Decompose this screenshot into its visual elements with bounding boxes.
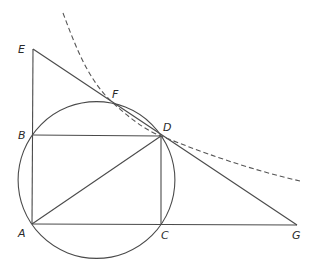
segment-ag xyxy=(32,224,297,225)
label-g: G xyxy=(292,230,301,241)
segment-bd xyxy=(32,135,161,136)
label-a: A xyxy=(18,228,26,239)
label-e: E xyxy=(18,44,25,55)
label-b: B xyxy=(18,130,26,141)
label-c: C xyxy=(161,230,169,241)
segment-ea xyxy=(32,49,33,224)
segment-ad xyxy=(32,136,161,224)
geometry-diagram: E F D B A C G xyxy=(0,0,315,270)
label-d: D xyxy=(163,122,171,133)
label-f: F xyxy=(112,89,118,100)
dashed-curve xyxy=(63,13,300,181)
segment-eg xyxy=(33,49,297,225)
diagram-canvas xyxy=(0,0,315,270)
